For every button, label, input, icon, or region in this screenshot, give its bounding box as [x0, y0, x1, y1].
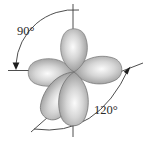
- angle-90-label: 90°: [17, 24, 35, 38]
- orbital-diagram: 90° 120°: [0, 0, 150, 141]
- arrowhead-down-icon: [13, 63, 20, 71]
- orbital-diagram-svg: 90° 120°: [0, 0, 150, 141]
- angle-120-label: 120°: [94, 103, 118, 117]
